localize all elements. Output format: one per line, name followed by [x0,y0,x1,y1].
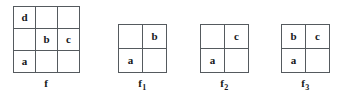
grid-cell-r1c1 [306,49,330,73]
grid-cell-r2c1 [36,51,58,73]
figure-f2: c a [200,24,249,73]
figure-f3: b c a [281,24,330,73]
grid-cell-r0c0: d [14,7,36,29]
grid-cell-r0c0 [119,25,143,49]
caption-subscript: 2 [224,83,228,92]
grid-f: d b c a [13,6,80,73]
grid-cell-r0c1: c [225,25,249,49]
grid-cell-r1c1: b [36,29,58,51]
grid-cell-r1c1 [143,49,167,73]
grid-f3: b c a [281,24,330,73]
grid-row: c [201,25,249,49]
grid-cell-r0c1: b [143,25,167,49]
grid-row: a [201,49,249,73]
grid-cell-r2c2 [58,51,80,73]
grid-cell-r0c1 [36,7,58,29]
grid-cell-r1c1 [225,49,249,73]
grid-f2: c a [200,24,249,73]
grid-row: b c [282,25,330,49]
grid-row: b c [14,29,80,51]
grid-f1: b a [118,24,167,73]
grid-cell-r1c0: a [201,49,225,73]
figure-caption-f2: f2 [200,78,248,89]
grid-cell-r1c2: c [58,29,80,51]
grid-row: b [119,25,167,49]
grid-cell-r2c0: a [14,51,36,73]
grid-cell-r0c0: b [282,25,306,49]
caption-letter: f [44,77,48,89]
figure-caption-f1: f1 [118,78,166,89]
grid-row: a [14,51,80,73]
grid-cell-r0c2 [58,7,80,29]
grid-row: d [14,7,80,29]
caption-subscript: 3 [305,83,309,92]
grid-cell-r0c0 [201,25,225,49]
grid-row: a [282,49,330,73]
figure-caption-f3: f3 [281,78,329,89]
grid-cell-r1c0: a [282,49,306,73]
figure-f: d b c a [13,6,80,73]
grid-cell-r1c0 [14,29,36,51]
grid-cell-r1c0: a [119,49,143,73]
figure-caption-f: f [13,78,79,89]
grid-row: a [119,49,167,73]
caption-subscript: 1 [142,83,146,92]
grid-cell-r0c1: c [306,25,330,49]
figure-f1: b a [118,24,167,73]
